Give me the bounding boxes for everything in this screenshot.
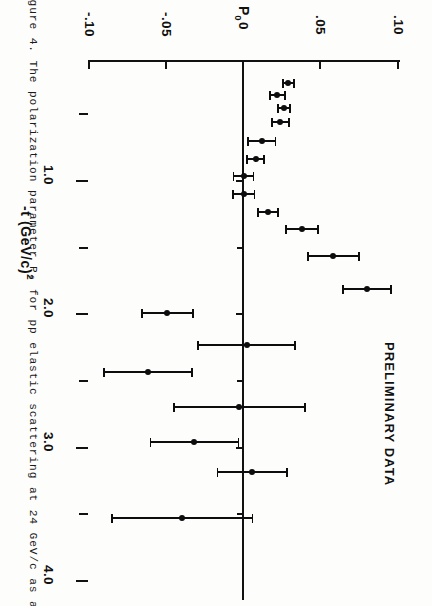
t-axis-inner-tick-2.0 bbox=[236, 313, 244, 315]
p0-tick--0.10 bbox=[88, 60, 90, 69]
t-ticklabel-4.0: 4.0 bbox=[41, 565, 56, 585]
errorbar-cap bbox=[269, 91, 271, 100]
p0-tick-0.10 bbox=[397, 60, 399, 69]
t-axis-inner-tick-3.5 bbox=[237, 513, 244, 515]
data-point bbox=[330, 253, 336, 259]
data-point bbox=[164, 310, 170, 316]
data-point bbox=[299, 226, 305, 232]
errorbar-cap bbox=[254, 190, 256, 199]
data-point bbox=[259, 138, 265, 144]
data-point bbox=[241, 191, 247, 197]
t-tick-2.0 bbox=[76, 313, 88, 315]
t-tick-0.5 bbox=[79, 113, 88, 115]
errorbar-cap bbox=[111, 514, 113, 523]
errorbar-cap bbox=[284, 91, 286, 100]
t-axis-inner-tick-1.0 bbox=[236, 180, 244, 182]
errorbar-cap bbox=[307, 252, 309, 261]
t-tick-2.5 bbox=[79, 380, 88, 382]
errorbar-cap bbox=[275, 137, 277, 146]
t-tick-1.0 bbox=[76, 180, 88, 182]
t-ticklabel-3.0: 3.0 bbox=[41, 432, 56, 452]
p0-tick--0.05 bbox=[165, 60, 167, 69]
p0-ticklabel-0.05: .05 bbox=[313, 15, 328, 35]
errorbar-cap bbox=[103, 368, 105, 377]
data-point bbox=[249, 469, 255, 475]
t-tick-3.0 bbox=[76, 447, 88, 449]
data-point bbox=[253, 156, 259, 162]
t-ticklabel-2.0: 2.0 bbox=[41, 298, 56, 318]
errorbar-cap bbox=[238, 438, 240, 447]
errorbar-cap bbox=[233, 172, 235, 181]
errorbar-cap bbox=[304, 403, 306, 412]
errorbar-cap bbox=[294, 341, 296, 350]
errorbar-cap bbox=[263, 155, 265, 164]
data-point bbox=[179, 515, 185, 521]
p0-axis-label: P0 bbox=[233, 6, 252, 21]
p0-axis-label-sub: 0 bbox=[233, 15, 244, 20]
data-point bbox=[241, 173, 247, 179]
errorbar-cap bbox=[232, 190, 234, 199]
errorbar-cap bbox=[191, 368, 193, 377]
errorbar-cap bbox=[289, 104, 291, 113]
p0-tick-0 bbox=[242, 60, 244, 69]
errorbar-cap bbox=[282, 79, 284, 88]
errorbar-cap bbox=[293, 79, 295, 88]
errorbar-cap bbox=[192, 309, 194, 318]
errorbar-cap bbox=[342, 285, 344, 294]
errorbar-cap bbox=[252, 514, 254, 523]
errorbar-cap bbox=[150, 438, 152, 447]
errorbar-cap bbox=[173, 403, 175, 412]
data-point bbox=[364, 286, 370, 292]
data-point bbox=[191, 439, 197, 445]
errorbar-cap bbox=[390, 285, 392, 294]
plot-area: -.10 -.05 0 .05 .10 P0 1.0 2.0 3.0 4.0 -… bbox=[0, 0, 432, 606]
t-axis-line bbox=[242, 60, 244, 600]
errorbar-cap bbox=[277, 208, 279, 217]
p0-axis-line bbox=[88, 60, 400, 62]
errorbar-cap bbox=[246, 155, 248, 164]
errorbar-cap bbox=[247, 137, 249, 146]
errorbar-cap bbox=[253, 172, 255, 181]
p0-ticklabel-0: 0 bbox=[236, 22, 251, 30]
errorbar-cap bbox=[286, 468, 288, 477]
errorbar-cap bbox=[197, 341, 199, 350]
t-axis-label: -t (GeV/c)2 bbox=[18, 206, 36, 280]
data-point bbox=[244, 342, 250, 348]
data-point bbox=[281, 105, 287, 111]
t-axis-inner-tick-2.5 bbox=[237, 380, 244, 382]
preliminary-data-annotation: PRELIMINARY DATA bbox=[382, 342, 397, 486]
p0-tick-0.05 bbox=[319, 60, 321, 69]
p0-ticklabel-0.10: .10 bbox=[391, 15, 406, 35]
errorbar-cap bbox=[317, 225, 319, 234]
p0-axis-label-symbol: P bbox=[236, 6, 252, 15]
data-point bbox=[274, 92, 280, 98]
errorbar-cap bbox=[285, 225, 287, 234]
p0-ticklabel--0.05: -.05 bbox=[159, 12, 174, 37]
p0-ticklabel--0.10: -.10 bbox=[82, 12, 97, 37]
data-point bbox=[277, 119, 283, 125]
figure-page: igure 4. The polarization parameter P₀ f… bbox=[0, 0, 432, 606]
t-tick-1.5 bbox=[79, 247, 88, 249]
data-point bbox=[145, 369, 151, 375]
t-axis-label-main: -t (GeV/c) bbox=[18, 206, 34, 274]
errorbar-cap bbox=[288, 118, 290, 127]
t-tick-4.0 bbox=[76, 580, 88, 582]
t-ticklabel-1.0: 1.0 bbox=[41, 165, 56, 185]
errorbar-cap bbox=[141, 309, 143, 318]
errorbar-cap bbox=[358, 252, 360, 261]
t-tick-3.5 bbox=[79, 513, 88, 515]
data-point bbox=[265, 209, 271, 215]
t-axis-label-exponent: 2 bbox=[25, 274, 36, 280]
t-axis-inner-tick-3.0 bbox=[236, 447, 244, 449]
errorbar-cap bbox=[257, 208, 259, 217]
data-point bbox=[285, 80, 291, 86]
t-axis-inner-tick-1.5 bbox=[237, 247, 244, 249]
errorbar-cap bbox=[217, 468, 219, 477]
errorbar-cap bbox=[277, 104, 279, 113]
errorbar-cap bbox=[271, 118, 273, 127]
